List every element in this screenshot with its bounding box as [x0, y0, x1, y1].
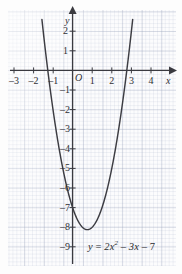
y-axis-name: y	[65, 16, 69, 26]
y-tick-label: –1	[60, 85, 70, 95]
x-tick-label: –1	[48, 76, 58, 86]
equation-equals: =	[96, 241, 102, 252]
y-tick-label: 2	[63, 26, 68, 36]
x-axis-name: x	[166, 76, 170, 86]
equation-y: y	[88, 241, 93, 252]
x-tick-label: –2	[29, 76, 39, 86]
y-tick-label: –3	[60, 124, 70, 134]
equation-label: y = 2x2 – 3x – 7	[88, 239, 155, 252]
y-axis-arrow	[69, 6, 77, 14]
x-tick-label: 2	[109, 76, 114, 86]
equation-exponent: 2	[114, 239, 118, 247]
y-tick-label: –8	[60, 222, 70, 232]
equation-linear-term: 3x	[129, 241, 139, 252]
origin-label: O	[75, 72, 82, 83]
y-tick-label: –5	[60, 163, 70, 173]
y-tick-label: –4	[60, 144, 70, 154]
y-tick-label: –2	[60, 105, 70, 115]
x-tick-label: 3	[129, 76, 134, 86]
x-tick-label: –3	[9, 76, 19, 86]
equation-minus-2: –	[142, 241, 147, 252]
parabola-curve	[42, 19, 133, 229]
y-tick-label: –9	[60, 242, 70, 252]
y-tick-label: –6	[60, 183, 70, 193]
x-tick-label: 1	[90, 76, 95, 86]
plot-canvas	[0, 0, 182, 274]
x-axis-arrow	[169, 66, 177, 74]
equation-constant: 7	[150, 241, 155, 252]
x-tick-label: 4	[149, 76, 154, 86]
y-tick-label: –7	[60, 203, 70, 213]
quadratic-graph-figure: –3 –2 –1 1 2 3 4 2 1 –1 –2 –3 –4 –5 –6 –…	[0, 0, 182, 274]
equation-minus-1: –	[121, 241, 126, 252]
y-tick-label: 1	[63, 46, 68, 56]
